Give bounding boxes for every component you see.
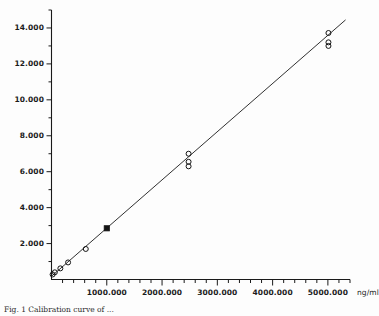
y-axis-tick-label: 8.000 <box>0 131 44 140</box>
axis-spines <box>51 10 350 280</box>
data-marker-open-circle <box>83 246 88 251</box>
y-axis-ticks <box>47 10 52 262</box>
data-marker-filled-square <box>104 226 109 231</box>
y-axis-tick-label: 6.000 <box>0 167 44 176</box>
data-marker-open-circle <box>66 260 71 265</box>
x-axis-tick-label: 2000.000 <box>132 288 192 297</box>
x-axis-tick-label: 3000.000 <box>187 288 247 297</box>
y-axis-tick-label: 2.000 <box>0 239 44 248</box>
x-axis-tick-label: 5000.000 <box>298 288 358 297</box>
y-axis-tick-label: 10.000 <box>0 95 44 104</box>
data-marker-open-circle <box>326 43 331 48</box>
regression-fit-line <box>52 20 346 276</box>
y-axis-tick-label: 4.000 <box>0 203 44 212</box>
x-axis-tick-label: 1000.000 <box>77 288 137 297</box>
figure-caption: Fig. 1 Calibration curve of ... <box>4 305 376 315</box>
calibration-curve-figure: 2.0004.0006.0008.00010.00012.00014.000 1… <box>0 0 379 316</box>
x-axis-ticks <box>63 280 350 286</box>
linear-regression-line <box>52 20 346 276</box>
y-axis-tick-label: 14.000 <box>0 23 44 32</box>
data-point-markers <box>50 30 331 276</box>
scatter-plot-canvas <box>0 0 379 316</box>
x-axis-tick-label: 4000.000 <box>243 288 303 297</box>
data-marker-open-circle <box>186 151 191 156</box>
y-axis-tick-label: 12.000 <box>0 59 44 68</box>
x-axis-unit-label: ng/ml <box>357 288 379 297</box>
